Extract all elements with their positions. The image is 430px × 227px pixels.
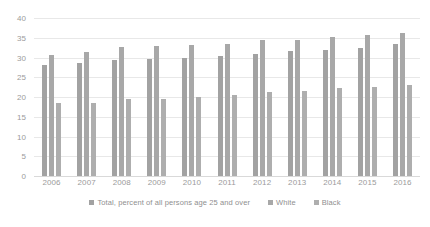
- y-axis-tick-label: 5: [21, 152, 26, 161]
- bar-group: [34, 18, 69, 176]
- y-axis-tick-label: 30: [17, 53, 26, 62]
- y-axis-tick-label: 25: [17, 73, 26, 82]
- bar[interactable]: [77, 63, 82, 176]
- bar[interactable]: [295, 40, 300, 176]
- x-axis-tick-label: 2011: [209, 178, 244, 192]
- x-axis-tick-label: 2013: [280, 178, 315, 192]
- bar-group: [280, 18, 315, 176]
- bar[interactable]: [288, 51, 293, 176]
- plot-area: [34, 18, 420, 176]
- bar-group: [350, 18, 385, 176]
- bar[interactable]: [218, 56, 223, 176]
- bar-chart: 0510152025303540 20062007200820092010201…: [0, 0, 430, 227]
- bar[interactable]: [196, 97, 201, 176]
- y-axis-tick-label: 15: [17, 112, 26, 121]
- y-axis: 0510152025303540: [0, 18, 30, 176]
- legend-label: White: [276, 198, 296, 207]
- bar[interactable]: [267, 92, 272, 176]
- bar[interactable]: [91, 103, 96, 176]
- bar[interactable]: [358, 48, 363, 176]
- bar-group: [139, 18, 174, 176]
- bar[interactable]: [126, 99, 131, 176]
- bar[interactable]: [161, 99, 166, 176]
- bar[interactable]: [154, 46, 159, 176]
- bar[interactable]: [400, 33, 405, 176]
- bar-group: [174, 18, 209, 176]
- bar[interactable]: [393, 44, 398, 176]
- bar[interactable]: [330, 37, 335, 176]
- y-axis-tick-label: 10: [17, 132, 26, 141]
- x-axis: 2006200720082009201020112012201320142015…: [34, 178, 420, 192]
- bar[interactable]: [260, 40, 265, 176]
- bar[interactable]: [337, 88, 342, 176]
- bar[interactable]: [112, 60, 117, 176]
- x-axis-tick-label: 2012: [245, 178, 280, 192]
- bar-group: [104, 18, 139, 176]
- gridline: [34, 176, 420, 177]
- bar-groups: [34, 18, 420, 176]
- bar[interactable]: [182, 58, 187, 176]
- x-axis-tick-label: 2008: [104, 178, 139, 192]
- x-axis-tick-label: 2014: [315, 178, 350, 192]
- legend-item[interactable]: Black: [314, 198, 341, 207]
- bar[interactable]: [372, 87, 377, 176]
- bar[interactable]: [232, 95, 237, 176]
- bar[interactable]: [84, 52, 89, 176]
- bar[interactable]: [189, 45, 194, 176]
- legend-label: Black: [322, 198, 341, 207]
- bar[interactable]: [225, 44, 230, 176]
- bar-group: [245, 18, 280, 176]
- chart-legend: Total, percent of all persons age 25 and…: [0, 194, 430, 210]
- x-axis-tick-label: 2006: [34, 178, 69, 192]
- x-axis-tick-label: 2009: [139, 178, 174, 192]
- bar[interactable]: [365, 35, 370, 176]
- legend-item[interactable]: White: [268, 198, 296, 207]
- legend-swatch-icon: [314, 200, 319, 205]
- x-axis-tick-label: 2016: [385, 178, 420, 192]
- x-axis-tick-label: 2015: [350, 178, 385, 192]
- bar-group: [209, 18, 244, 176]
- x-axis-tick-label: 2007: [69, 178, 104, 192]
- legend-item[interactable]: Total, percent of all persons age 25 and…: [89, 198, 250, 207]
- bar[interactable]: [147, 59, 152, 176]
- bar[interactable]: [253, 54, 258, 176]
- bar[interactable]: [407, 85, 412, 176]
- legend-swatch-icon: [89, 200, 94, 205]
- y-axis-tick-label: 35: [17, 33, 26, 42]
- bar[interactable]: [119, 47, 124, 176]
- legend-swatch-icon: [268, 200, 273, 205]
- bar-group: [69, 18, 104, 176]
- bar[interactable]: [56, 103, 61, 176]
- bar[interactable]: [302, 91, 307, 176]
- bar[interactable]: [49, 55, 54, 176]
- legend-label: Total, percent of all persons age 25 and…: [97, 198, 250, 207]
- y-axis-tick-label: 20: [17, 93, 26, 102]
- bar-group: [385, 18, 420, 176]
- y-axis-tick-label: 40: [17, 14, 26, 23]
- x-axis-tick-label: 2010: [174, 178, 209, 192]
- bar-group: [315, 18, 350, 176]
- bar[interactable]: [323, 50, 328, 176]
- bar[interactable]: [42, 65, 47, 176]
- y-axis-tick-label: 0: [21, 172, 26, 181]
